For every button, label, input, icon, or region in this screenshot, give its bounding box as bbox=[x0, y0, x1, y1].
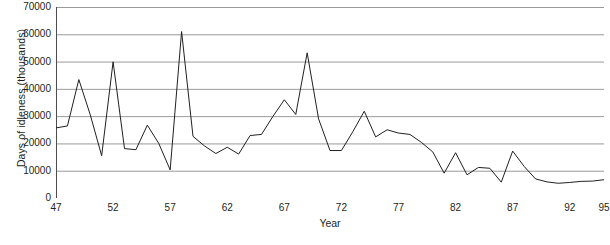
x-tick-label: 95 bbox=[584, 203, 610, 213]
x-axis-title: Year bbox=[56, 218, 604, 229]
x-tick-label: 77 bbox=[379, 203, 419, 213]
x-tick-label: 87 bbox=[493, 203, 533, 213]
chart-figure: Days of idleness (thousands) 70000600005… bbox=[0, 0, 610, 245]
x-tick-label: 72 bbox=[321, 203, 361, 213]
x-tick-label: 47 bbox=[36, 203, 76, 213]
x-tick-label: 57 bbox=[150, 203, 190, 213]
x-tick-label: 82 bbox=[436, 203, 476, 213]
x-tick-label: 62 bbox=[207, 203, 247, 213]
x-tick-label: 52 bbox=[93, 203, 133, 213]
cropped-caption-sliver bbox=[8, 236, 478, 239]
x-axis-tick-labels: 4752576267727782879295 bbox=[0, 0, 610, 245]
x-tick-label: 67 bbox=[264, 203, 304, 213]
